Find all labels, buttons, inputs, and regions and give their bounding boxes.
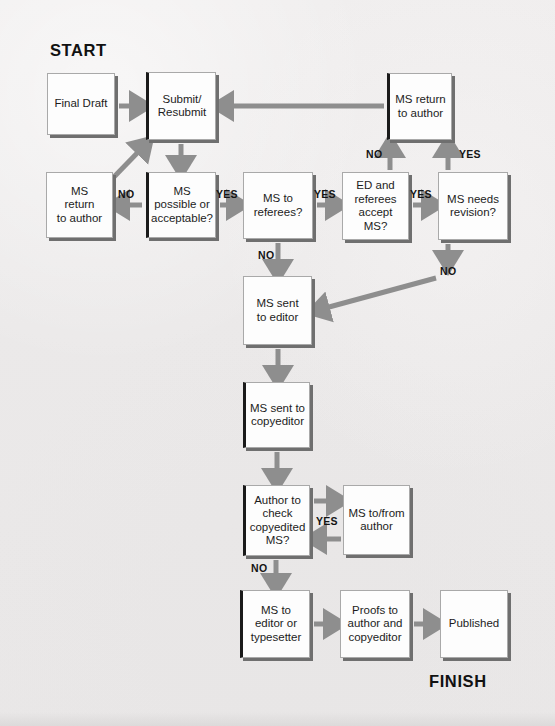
node-ms-return-author-2: MS return to author — [46, 172, 113, 238]
node-label: MS return to author — [54, 185, 105, 226]
edge-label-yes-referees: YES — [314, 188, 336, 200]
edge-label-yes-accept: YES — [410, 188, 432, 200]
node-label: MS to referees? — [251, 192, 306, 219]
edge-label-no-revision: NO — [440, 265, 456, 277]
node-ed-referees-accept: ED and referees accept MS? — [342, 172, 409, 240]
node-label: Submit/ Resubmit — [155, 93, 210, 120]
node-ms-to-referees: MS to referees? — [243, 172, 313, 239]
edge-msreturn-submit-diagonal — [111, 145, 145, 180]
node-label: MS sent to editor — [253, 297, 301, 324]
node-label: Author to check copyedited MS? — [247, 494, 309, 548]
node-ms-sent-editor: MS sent to editor — [243, 276, 312, 345]
terminal-finish-label: FINISH — [429, 672, 487, 691]
terminal-start-label: START — [50, 41, 107, 60]
node-label: MS to/from author — [345, 507, 407, 534]
edge-label-no-accept: NO — [366, 148, 382, 160]
node-ms-return-author-1: MS return to author — [387, 73, 452, 140]
node-label: MS sent to copyeditor — [247, 402, 308, 429]
edge-label-yes-revision: YES — [459, 148, 481, 160]
node-label: MS possible or acceptable? — [148, 185, 216, 226]
node-ms-sent-copyeditor: MS sent to copyeditor — [243, 382, 310, 448]
flowchart-canvas: Final DraftSubmit/ ResubmitMS return to … — [0, 0, 555, 726]
node-proofs-to-author: Proofs to author and copyeditor — [340, 590, 410, 658]
edge-label-yes-author-check: YES — [316, 515, 338, 527]
node-published: Published — [440, 590, 508, 658]
edge-label-no-possible: NO — [118, 188, 134, 200]
node-label: MS return to author — [392, 93, 449, 120]
node-label: Final Draft — [51, 97, 110, 111]
edge-revision-mssenteditor-diagonal — [318, 278, 436, 310]
edge-label-no-author-check: NO — [251, 562, 267, 574]
node-author-check: Author to check copyedited MS? — [243, 485, 310, 556]
node-label: ED and referees accept MS? — [343, 179, 408, 233]
node-final-draft: Final Draft — [47, 73, 115, 135]
node-ms-to-typesetter: MS to editor or typesetter — [240, 590, 310, 658]
node-submit-resubmit: Submit/ Resubmit — [146, 72, 216, 140]
page-bottom-edge — [0, 712, 555, 726]
edge-label-no-referees: NO — [258, 249, 274, 261]
node-label: MS to editor or typesetter — [248, 604, 305, 645]
node-ms-needs-revision: MS needs revision? — [438, 172, 508, 240]
node-label: Published — [446, 617, 503, 631]
edge-label-yes-possible: YES — [216, 188, 238, 200]
node-ms-possible: MS possible or acceptable? — [146, 172, 216, 238]
node-label: Proofs to author and copyeditor — [345, 604, 406, 645]
node-label: MS needs revision? — [444, 193, 502, 220]
node-ms-to-from-author: MS to/from author — [343, 485, 410, 555]
